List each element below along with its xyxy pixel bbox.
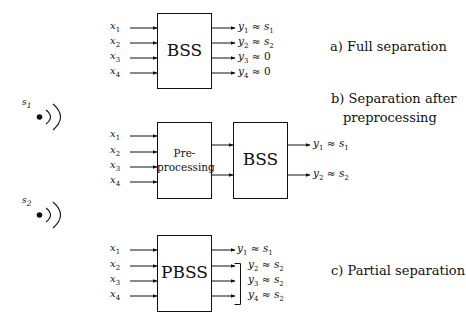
input-x3-b: x3	[110, 159, 120, 173]
input-x2-c: x2	[110, 258, 120, 272]
input-x3-a: x3	[110, 50, 120, 64]
pbss-box-label: PBSS	[157, 262, 212, 282]
output-a-2: y2 ≈ s2	[238, 35, 274, 50]
source-2-label: s2	[22, 195, 31, 208]
output-a-1: y1 ≈ s1	[238, 20, 274, 35]
preprocessing-label: Pre-processing	[157, 146, 212, 174]
output-c-1: y1 ≈ s1	[237, 242, 273, 257]
output-c-4: y4 ≈ s2	[248, 288, 284, 303]
input-x1-c: x1	[110, 242, 120, 256]
bracket	[235, 264, 241, 305]
output-a-3: y3 ≈ 0	[238, 50, 271, 65]
input-x4-c: x4	[110, 288, 120, 302]
input-x2-a: x2	[110, 35, 120, 49]
source-1-dot	[37, 114, 43, 120]
output-c-3: y3 ≈ s2	[248, 273, 284, 288]
input-x1-a: x1	[110, 20, 120, 34]
output-c-2: y2 ≈ s2	[248, 258, 284, 273]
source-2-dot	[37, 212, 43, 218]
bss-box-b-label: BSS	[233, 149, 288, 169]
bss-box-a-label: BSS	[157, 40, 212, 60]
caption-c: c) Partial separation	[331, 263, 465, 278]
output-b-2: y2 ≈ s2	[313, 167, 349, 182]
input-x1-b: x1	[110, 128, 120, 142]
input-x3-c: x3	[110, 273, 120, 287]
output-b-1: y1 ≈ s1	[313, 137, 349, 152]
output-a-4: y4 ≈ 0	[238, 65, 271, 80]
caption-b-line1: b) Separation after	[331, 91, 457, 106]
input-x4-a: x4	[110, 65, 120, 79]
source-1-label: s1	[22, 97, 31, 110]
input-x4-b: x4	[110, 174, 120, 188]
input-x2-b: x2	[110, 144, 120, 158]
caption-b-line2: preprocessing	[343, 110, 437, 125]
caption-a: a) Full separation	[330, 39, 447, 54]
